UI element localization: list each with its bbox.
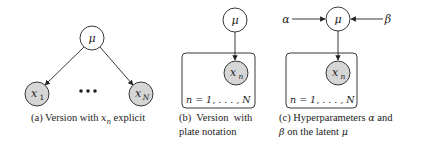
caption-a: (a) Version with xn explicit — [31, 111, 145, 129]
svg-text:x: x — [31, 87, 38, 100]
node-xn-b: x n — [224, 61, 248, 85]
edge-mu-x1 — [45, 47, 84, 85]
panel-c: α μ β x n n = 1, . . . , N — [282, 7, 391, 108]
node-beta: β — [384, 13, 391, 26]
caption-b: (b) Version withplate notation — [179, 111, 252, 139]
svg-text:μ: μ — [231, 14, 238, 27]
node-mu-b: μ — [223, 8, 247, 32]
plate-label-b: n = 1, . . . , N — [186, 94, 251, 105]
svg-text:μ: μ — [334, 13, 341, 26]
svg-text:x: x — [332, 66, 339, 79]
svg-text:x: x — [135, 87, 142, 100]
svg-text:1: 1 — [40, 93, 45, 102]
caption-c: (c) Hyperparameters α andβ on the latent… — [279, 111, 392, 139]
node-xN: x N — [129, 82, 153, 106]
node-x1: x 1 — [25, 82, 49, 106]
panel-a: μ x 1 x N — [25, 26, 153, 106]
ellipsis — [79, 89, 97, 93]
node-mu-a: μ — [80, 26, 104, 50]
plate-label-c: n = 1, . . . , N — [290, 94, 355, 105]
node-mu-c: μ — [326, 7, 350, 31]
svg-text:N: N — [142, 93, 150, 102]
svg-text:x: x — [230, 66, 237, 79]
node-xn-c: x n — [326, 61, 350, 85]
svg-text:μ: μ — [88, 32, 95, 45]
svg-text:n: n — [239, 72, 244, 81]
svg-text:n: n — [341, 72, 346, 81]
panel-b: μ x n n = 1, . . . , N — [182, 8, 255, 108]
node-alpha: α — [282, 13, 290, 26]
edge-mu-xN — [100, 47, 133, 85]
